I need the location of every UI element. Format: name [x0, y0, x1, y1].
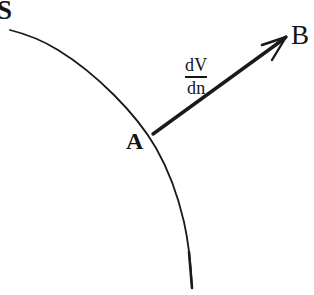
label-point-b: B — [291, 22, 309, 49]
vector-label-dv-dn: dV dn — [185, 56, 207, 98]
label-surface-s: S — [0, 0, 12, 24]
normal-derivative-vector-shaft — [153, 41, 281, 134]
surface-curve-S — [10, 30, 192, 288]
fraction-numerator: dV — [185, 56, 207, 75]
fraction-denominator: dn — [185, 79, 207, 98]
figure-canvas: S A B dV dn — [0, 0, 314, 295]
surface-curve-tail — [189, 252, 192, 288]
label-point-a: A — [126, 129, 143, 153]
arrow-head-icon — [262, 37, 286, 60]
diagram-svg — [0, 0, 314, 295]
